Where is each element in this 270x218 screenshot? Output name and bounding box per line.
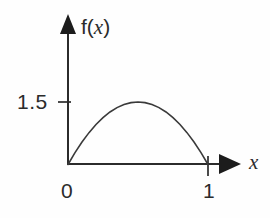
x-axis-arrow-icon: [219, 154, 241, 174]
x-axis-label: x: [249, 152, 258, 173]
y-axis-arrow-icon: [60, 14, 76, 34]
x-tick-label-1: 1: [203, 180, 215, 201]
y-axis-label: f(x): [81, 16, 110, 38]
x-tick-label-0: 0: [61, 180, 73, 201]
y-axis-label-suffix: ): [103, 15, 110, 38]
figure-container: f(x) 1.5 x 0 1: [0, 0, 270, 218]
density-curve: [68, 102, 208, 165]
y-axis-label-prefix: f(: [81, 15, 94, 38]
y-axis-label-variable: x: [94, 15, 103, 39]
y-tick-label-1-5: 1.5: [17, 91, 48, 112]
